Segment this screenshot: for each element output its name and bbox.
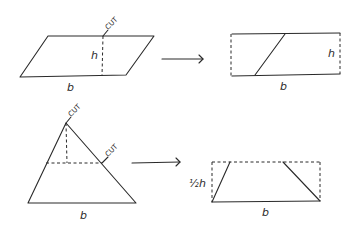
rectangle-from-triangle-figure: ½ h b — [189, 162, 320, 219]
area-derivation-diagram: CUT h b h b CUT CUT b — [0, 0, 359, 231]
cut-leader-line — [103, 30, 108, 36]
triangle-cut-side-label: CUT — [104, 142, 120, 158]
arrow-right-top — [162, 55, 203, 63]
rectangle-height-label: h — [328, 47, 335, 60]
bottom-edge — [212, 201, 320, 202]
arrow-right-bottom — [132, 158, 180, 166]
parallelogram-height-cut — [102, 36, 103, 76]
parallelogram-shape — [20, 36, 154, 77]
half-height-label: h — [199, 177, 206, 190]
parallelogram-cut-label: CUT — [104, 15, 120, 31]
rectangle-from-triangle-base-label: b — [262, 206, 269, 219]
parallelogram-figure: CUT h b — [20, 15, 154, 94]
rectangle-figure: h b — [231, 33, 340, 93]
triangle-height-cut — [66, 123, 67, 163]
triangle-cut-top-label: CUT — [67, 102, 83, 118]
parallelogram-height-label: h — [91, 49, 98, 62]
triangle-base-label: b — [80, 209, 87, 222]
cut-top-leader-line — [66, 117, 71, 123]
half-label: ½ — [189, 178, 199, 189]
left-slant-edge — [212, 162, 230, 202]
rectangle-base-label: b — [280, 80, 287, 93]
rectangle-slant-line — [255, 34, 285, 75]
triangle-figure: CUT CUT b — [28, 102, 136, 222]
parallelogram-base-label: b — [67, 81, 74, 94]
cut-side-leader-line — [102, 157, 108, 163]
right-slant-edge — [283, 162, 320, 201]
